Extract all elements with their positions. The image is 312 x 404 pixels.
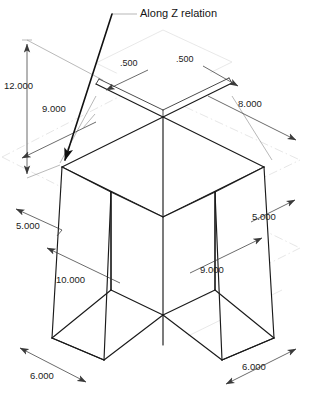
dimension-label: 12.000 [4,80,33,91]
dimension-label: 10.000 [56,274,85,285]
dimension-label: 6.000 [242,361,266,372]
annotation-label: Along Z relation [140,7,217,19]
dimension-label: 5.000 [16,220,40,231]
dimension-base-left-width: 6.000 [20,348,86,382]
dimension-mid-left-depth: 5.000 [16,209,62,236]
dimension-label: 8.000 [238,98,262,109]
dimension-top-right-width: 8.000 [208,96,296,140]
dimension-label: 9.000 [200,264,224,275]
cad-drawing-canvas: Plane6 [0,0,312,404]
technical-drawing-svg: Plane6 [0,0,312,404]
dimension-label: 5.000 [252,211,276,222]
dimension-top-left-width: 9.000 [22,103,96,158]
dimension-label: .500 [120,58,138,68]
dimension-label: .500 [176,54,194,64]
dimension-label: 9.000 [42,103,66,114]
dimension-label: 6.000 [30,370,54,381]
top-plate [96,50,232,117]
